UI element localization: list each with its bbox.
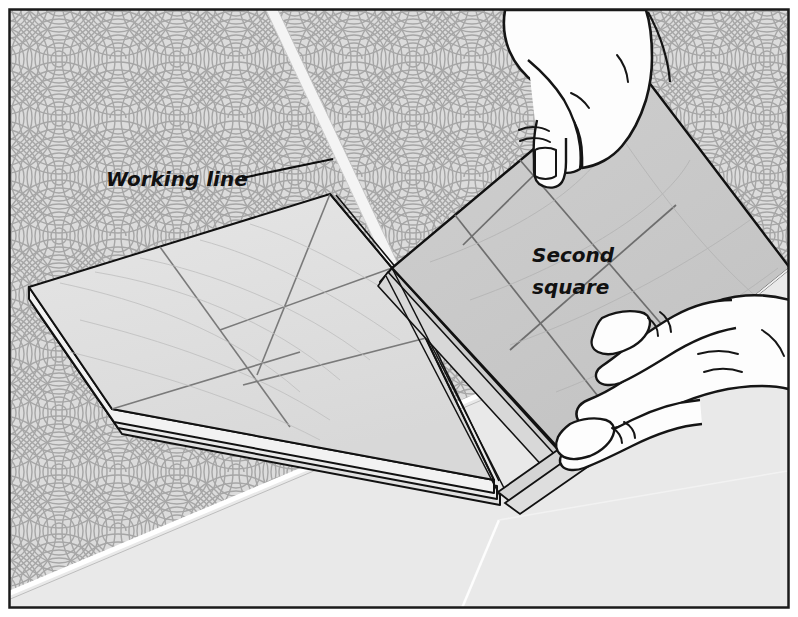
upper-hand-thumbnail	[535, 148, 556, 179]
working-line-label: Working line	[106, 167, 248, 191]
scene-contents: Working line Second square	[8, 9, 798, 608]
illustration-canvas: Working line Second square	[0, 0, 798, 617]
second-square-label-line2: square	[532, 275, 609, 299]
scene-svg: Working line Second square	[0, 0, 798, 617]
second-square-label-line1: Second	[532, 243, 615, 267]
